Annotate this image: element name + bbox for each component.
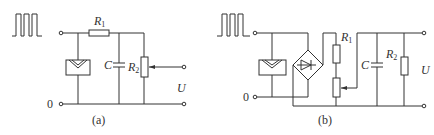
resistor-r1 xyxy=(89,30,109,36)
photocell-icon xyxy=(66,60,90,75)
output-terminal-top xyxy=(182,65,186,69)
capacitor-c xyxy=(113,63,125,67)
resistor-r2 xyxy=(401,57,408,75)
output-terminal-top xyxy=(422,31,426,35)
ground-terminal xyxy=(253,95,257,99)
wiper-arrow-icon xyxy=(341,86,347,90)
label-r2: R2 xyxy=(127,60,139,75)
panel-b: 0 R1 C R2 xyxy=(217,14,431,127)
label-c: C xyxy=(361,58,370,72)
output-terminal-bottom xyxy=(422,104,426,108)
label-r2: R2 xyxy=(385,47,397,62)
panel-a: R1 C R2 0 U (a) xyxy=(12,14,187,127)
label-c: C xyxy=(104,58,113,72)
photocell-icon xyxy=(259,60,286,75)
ground-label: 0 xyxy=(243,90,249,104)
square-wave-icon xyxy=(217,14,250,36)
resistor-r1 xyxy=(333,45,340,63)
input-terminal xyxy=(253,31,257,35)
potentiometer xyxy=(333,78,340,97)
output-label: U xyxy=(177,81,187,95)
ground-label: 0 xyxy=(47,97,53,111)
label-r1: R1 xyxy=(93,14,105,29)
caption-a: (a) xyxy=(92,113,105,127)
circuit-diagrams: R1 C R2 0 U (a) xyxy=(0,0,434,135)
output-terminal-bottom xyxy=(182,102,186,106)
ground-terminal xyxy=(59,102,63,106)
label-r1: R1 xyxy=(340,30,352,45)
potentiometer-r2 xyxy=(141,57,148,77)
wiper-arrow-icon xyxy=(149,65,155,69)
output-label: U xyxy=(421,63,431,77)
input-terminal xyxy=(59,31,63,35)
capacitor-c xyxy=(371,63,383,67)
square-wave-icon xyxy=(12,14,42,36)
caption-b: (b) xyxy=(318,113,332,127)
diode-bridge-icon xyxy=(293,50,323,80)
